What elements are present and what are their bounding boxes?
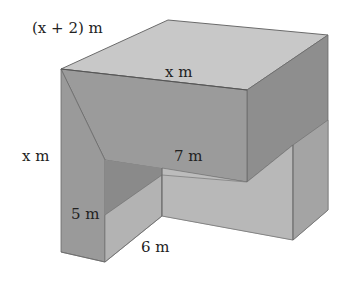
label-top-depth: x m <box>165 63 192 81</box>
label-notch-width: 6 m <box>141 238 170 256</box>
label-left-height: x m <box>22 147 49 165</box>
label-top-left-width: (x + 2) m <box>32 19 103 37</box>
label-notch-depth: 7 m <box>174 147 203 165</box>
label-notch-height: 5 m <box>71 205 100 223</box>
prism-diagram <box>0 0 349 292</box>
